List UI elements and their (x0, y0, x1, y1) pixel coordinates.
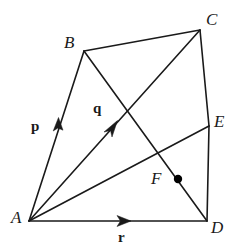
vector-diagram-figure: A B C D E F p q r (0, 0, 249, 251)
point-marker-f (174, 175, 182, 183)
diagonal-a-e (29, 126, 209, 221)
vector-label-p: p (31, 119, 39, 134)
vertex-label-c: C (206, 11, 217, 28)
edge-e-d (207, 126, 209, 221)
vector-label-q: q (93, 101, 101, 116)
vertex-label-b: B (64, 34, 74, 51)
vertex-label-e: E (214, 113, 224, 130)
edge-c-e (200, 30, 209, 126)
edge-b-c (84, 30, 200, 51)
vertex-label-f: F (151, 170, 161, 187)
vertex-label-a: A (11, 209, 21, 226)
vertex-label-d: D (211, 219, 223, 236)
vector-label-r: r (118, 230, 125, 245)
